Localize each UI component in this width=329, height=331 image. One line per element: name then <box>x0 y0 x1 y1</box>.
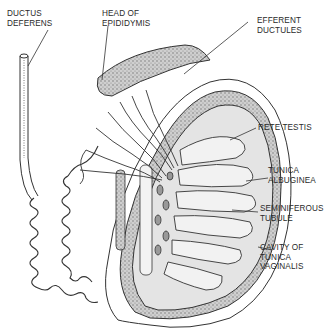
ductus-deferens-tube <box>20 54 38 200</box>
label-rete-testis: RETE TESTIS <box>258 123 312 133</box>
label-seminiferous-tubule: SEMINIFEROUS TUBULE <box>260 204 324 223</box>
label-efferent-ductules: EFFERENT DUCTULES <box>257 16 302 35</box>
epididymis-coils <box>30 146 98 303</box>
label-cavity-of-tunica-vaginalis: CAVITY OF TUNICA VAGINALIS <box>260 243 304 272</box>
epididymis-head <box>97 45 210 96</box>
label-tunica-albuginea: TUNICA ALBUGINEA <box>268 166 316 185</box>
label-head-of-epididymis: HEAD OF EPIDIDYMIS <box>102 9 150 28</box>
label-ductus-deferens: DUCTUS DEFERENS <box>7 9 52 28</box>
